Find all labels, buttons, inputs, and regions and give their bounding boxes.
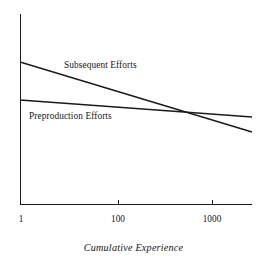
series-line-subsequent-efforts — [20, 62, 252, 132]
chart-plot-area — [0, 0, 267, 264]
x-tick-label-1: 1 — [19, 215, 24, 224]
x-tick-label-1000: 1000 — [203, 215, 222, 224]
series-label-subsequent-efforts: Subsequent Efforts — [64, 61, 137, 70]
series-label-preproduction-efforts: Preproduction Efforts — [29, 112, 112, 121]
chart-figure: Subsequent Efforts Preproduction Efforts… — [0, 0, 267, 264]
x-axis-title: Cumulative Experience — [0, 243, 267, 253]
x-tick-label-100: 100 — [111, 215, 125, 224]
